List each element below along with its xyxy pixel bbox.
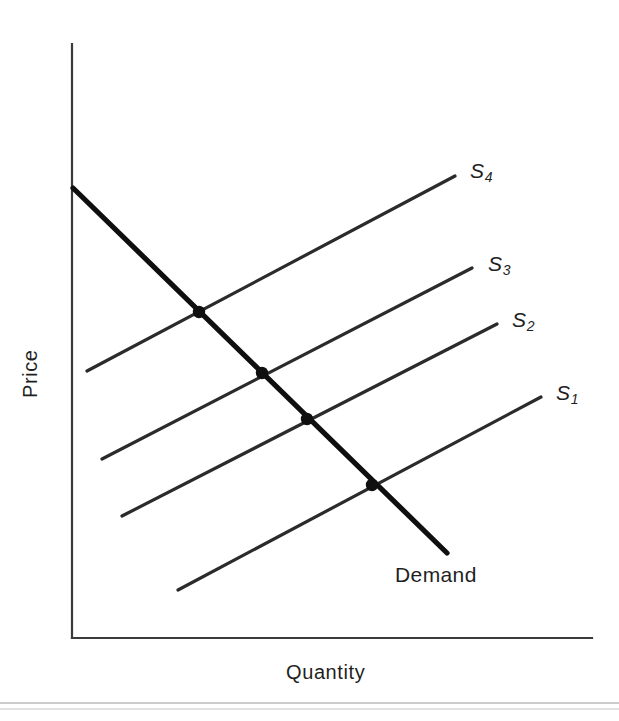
x-axis-label: Quantity [286,662,365,682]
supply-curve-s1 [178,397,541,590]
series-label-s1: S1 [556,382,578,403]
series-label-s4: S4 [470,160,492,181]
equilibrium-dot-s3 [256,367,268,379]
equilibrium-dot-s1 [366,479,378,491]
supply-curve-s4 [87,176,455,371]
series-label-s2-text: S [512,308,526,331]
series-label-s1-subscript: 1 [571,391,579,407]
series-label-s3-text: S [488,252,502,275]
footer-divider [0,703,619,709]
series-label-s4-subscript: 4 [485,169,493,185]
supply-curves-group [87,176,541,590]
equilibrium-dot-s2 [301,413,313,425]
series-label-s4-text: S [470,159,484,182]
series-label-s2-subscript: 2 [527,318,535,334]
supply-demand-chart [0,0,619,721]
series-label-s3-subscript: 3 [503,262,511,278]
series-label-s3: S3 [488,253,510,274]
demand-curve-label: Demand [395,564,477,585]
series-label-s1-text: S [556,381,570,404]
figure-canvas: S4 S3 S2 S1 Demand Price Quantity [0,0,619,721]
series-label-s2: S2 [512,309,534,330]
equilibrium-dot-s4 [193,306,205,318]
y-axis-label: Price [20,349,40,398]
